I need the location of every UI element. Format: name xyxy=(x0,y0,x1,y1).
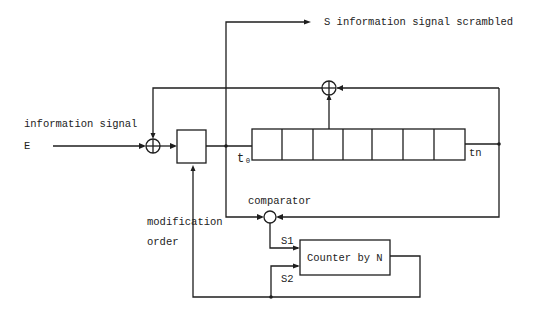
tap-line xyxy=(327,94,332,129)
input-line xyxy=(53,143,146,149)
diagram-canvas xyxy=(0,0,542,318)
s2-label: S2 xyxy=(281,274,294,285)
comparator-label: comparator xyxy=(248,196,311,207)
register-end-label: tn xyxy=(469,148,482,159)
scrambler-diagram: information signal E S information signa… xyxy=(0,0,542,318)
modification-label-line1: modification xyxy=(147,217,223,228)
input-symbol: E xyxy=(24,141,30,152)
counter-label: Counter by N xyxy=(307,253,383,264)
shift-register xyxy=(252,129,465,160)
output-line xyxy=(226,20,311,147)
xor-feedback-icon xyxy=(322,81,336,95)
input-label: information signal xyxy=(24,119,137,130)
comparator-icon xyxy=(264,211,276,223)
register-start-label: t₀ xyxy=(237,153,251,165)
output-label: S information signal scrambled xyxy=(324,17,513,28)
s1-label: S1 xyxy=(281,236,294,247)
counter-loop-line xyxy=(191,165,421,299)
xor-input-icon xyxy=(146,139,160,153)
modification-label-line2: order xyxy=(147,237,179,248)
xor-to-block-line xyxy=(160,143,177,149)
block-to-register-line xyxy=(206,144,252,148)
modifier-block xyxy=(177,130,206,163)
